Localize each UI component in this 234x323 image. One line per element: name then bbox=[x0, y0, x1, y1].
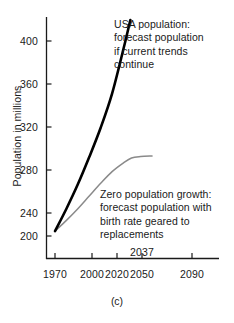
annotation-usa-population: USA population: forecast population if c… bbox=[114, 18, 234, 72]
x-tick-label-2037: 2037 bbox=[130, 246, 154, 258]
y-tick-label: 320 bbox=[10, 121, 38, 133]
y-tick-label: 400 bbox=[10, 35, 38, 47]
y-axis-ticks bbox=[47, 41, 52, 236]
x-tick-label: 2020 bbox=[105, 268, 129, 280]
annotation-zero-population-growth: Zero population growth: forecast populat… bbox=[100, 188, 234, 242]
y-tick-label: 240 bbox=[10, 207, 38, 219]
y-axis-tick-labels: 400 360 320 280 240 200 bbox=[8, 0, 38, 323]
y-tick-label: 200 bbox=[10, 230, 38, 242]
x-tick-label: 2050 bbox=[130, 268, 154, 280]
figure-caption: (c) bbox=[0, 295, 234, 307]
x-axis-ticks bbox=[55, 253, 192, 259]
x-tick-label: 1970 bbox=[43, 268, 67, 280]
y-tick-label: 360 bbox=[10, 78, 38, 90]
x-tick-label: 2090 bbox=[180, 268, 204, 280]
y-tick-label: 280 bbox=[10, 164, 38, 176]
population-forecast-chart: Population in millions 400 360 320 280 2… bbox=[0, 0, 234, 323]
x-tick-label: 2000 bbox=[80, 268, 104, 280]
